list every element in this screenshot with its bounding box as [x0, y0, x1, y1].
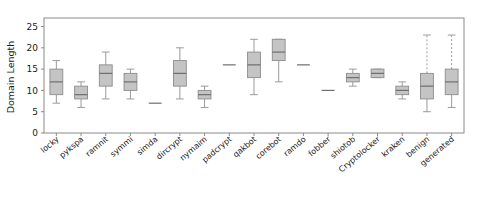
box-plot-item: [346, 69, 359, 86]
box-plot-item: [50, 61, 63, 104]
box-plot-item: [421, 35, 434, 112]
y-tick-label: 25: [27, 22, 38, 32]
box-plot-item: [248, 39, 261, 94]
box-plot-item: [173, 48, 186, 99]
x-tick-label: corebot: [254, 135, 283, 161]
y-tick-label: 0: [32, 128, 38, 138]
x-tick-label: locky: [39, 134, 61, 154]
box-plot-item: [75, 82, 88, 108]
x-tick-label: pykspa: [58, 135, 86, 160]
box-rect: [99, 65, 112, 86]
box-plot-item: [124, 69, 137, 99]
chart-container: 0510152025 lockypyksparamnitsymmisimdadi…: [0, 0, 487, 202]
box-plot-item: [371, 69, 384, 78]
box-rect: [272, 39, 285, 60]
y-tick-label: 20: [27, 43, 39, 53]
box-series: [50, 35, 458, 112]
y-tick-label: 10: [27, 86, 39, 96]
box-rect: [75, 86, 88, 99]
box-plot-item: [272, 39, 285, 82]
x-tick-label: symmi: [109, 135, 135, 159]
box-plot-item: [198, 86, 211, 107]
y-tick-label: 5: [32, 107, 38, 117]
box-plot-item: [396, 82, 409, 99]
x-axis-tick-labels: lockypyksparamnitsymmisimdadircryptnymai…: [39, 134, 456, 174]
box-plot-item: [445, 35, 458, 107]
x-tick-label: kraken: [380, 135, 407, 159]
y-tick-label: 15: [27, 64, 38, 74]
x-tick-label: ramnit: [84, 135, 110, 159]
box-plot-item: [99, 52, 112, 99]
x-tick-label: ramdo: [282, 135, 308, 159]
y-axis-tick-labels: 0510152025: [27, 22, 39, 138]
box-plot-chart: 0510152025 lockypyksparamnitsymmisimdadi…: [0, 0, 487, 202]
y-axis-title: Domain Length: [5, 41, 16, 114]
